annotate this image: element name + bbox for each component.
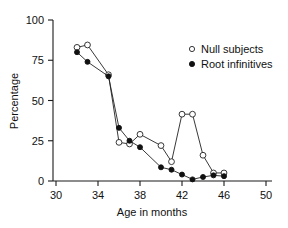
data-point (190, 177, 195, 182)
legend-marker-filled-circle (189, 61, 194, 66)
x-axis-title: Age in months (117, 206, 188, 218)
data-point (169, 159, 175, 165)
data-point (116, 139, 122, 145)
data-point (85, 59, 90, 64)
data-point (201, 174, 206, 179)
data-point (75, 50, 80, 55)
chart-legend: Null subjects Root infinitives (189, 43, 273, 70)
legend-label-root-infinitives: Root infinitives (201, 58, 273, 70)
legend-label-null-subjects: Null subjects (201, 43, 264, 55)
data-point (106, 74, 111, 79)
x-tick-label-30: 30 (50, 189, 62, 201)
y-axis-tick-labels: 100 75 50 25 0 (26, 14, 44, 187)
y-tick-label-100: 100 (26, 14, 44, 26)
y-axis-title: Percentage (8, 73, 20, 129)
series-line (77, 52, 224, 179)
data-point (138, 145, 143, 150)
y-tick-label-50: 50 (32, 95, 44, 107)
data-point (85, 42, 91, 48)
x-tick-label-34: 34 (92, 189, 104, 201)
x-axis-tick-labels: 30 34 38 42 46 50 (50, 189, 272, 201)
x-tick-label-50: 50 (260, 189, 272, 201)
data-point (117, 125, 122, 130)
data-point (190, 111, 196, 117)
data-point (222, 174, 227, 179)
data-point (159, 165, 164, 170)
x-tick-label-38: 38 (134, 189, 146, 201)
data-point (180, 172, 185, 177)
y-tick-label-75: 75 (32, 54, 44, 66)
data-point (137, 131, 143, 137)
x-tick-label-42: 42 (176, 189, 188, 201)
y-tick-label-25: 25 (32, 135, 44, 147)
chart-figure: 100 75 50 25 0 30 34 38 42 46 50 Age in … (0, 0, 288, 228)
data-point (158, 143, 164, 149)
data-point (200, 152, 206, 158)
x-tick-label-46: 46 (218, 189, 230, 201)
data-point (127, 138, 132, 143)
y-axis-ticks (48, 20, 53, 181)
data-point (169, 167, 174, 172)
y-tick-label-0: 0 (38, 175, 44, 187)
data-point (179, 111, 185, 117)
data-point (211, 173, 216, 178)
line-chart: 100 75 50 25 0 30 34 38 42 46 50 Age in … (0, 0, 288, 228)
legend-marker-open-circle (189, 46, 194, 51)
x-axis-ticks (56, 181, 266, 186)
